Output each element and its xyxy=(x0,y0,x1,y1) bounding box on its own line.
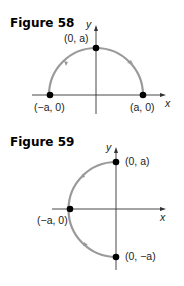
point-neg-a-0 xyxy=(47,92,54,99)
y-axis-label: y xyxy=(106,141,111,153)
point-0-a xyxy=(93,45,100,52)
point-neg-a-0 xyxy=(67,206,74,213)
point-0-neg-a xyxy=(113,254,120,261)
direction-arrow-icon xyxy=(64,61,68,66)
point-label: (0, a) xyxy=(125,155,150,167)
semicircle-curve xyxy=(68,162,116,257)
y-axis-label: y xyxy=(86,18,91,30)
point-label: (0, −a) xyxy=(125,250,156,262)
x-axis-label: x xyxy=(165,97,170,109)
figure-59-title: Figure 59 xyxy=(10,135,74,149)
y-axis-arrow-icon xyxy=(114,147,118,153)
y-axis-arrow-icon xyxy=(94,25,98,31)
point-label: (−a, 0) xyxy=(37,214,68,226)
x-axis-label: x xyxy=(160,211,165,223)
direction-arrow-icon xyxy=(83,242,88,246)
point-label: (−a, 0) xyxy=(34,101,65,113)
point-label: (a, 0) xyxy=(130,101,155,113)
point-a-0 xyxy=(140,92,147,99)
point-0-a xyxy=(113,159,120,166)
point-label: (0, a) xyxy=(64,32,89,44)
